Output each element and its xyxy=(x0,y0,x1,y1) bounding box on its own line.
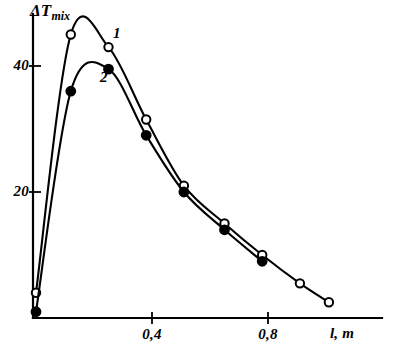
chart-figure: ΔTmix l, m 40 20 0,4 0,8 1 2 xyxy=(0,0,393,361)
data-point xyxy=(67,30,75,38)
data-point xyxy=(258,257,267,266)
y-axis-label: ΔTmix xyxy=(30,2,70,22)
data-point xyxy=(296,279,304,287)
data-point xyxy=(142,115,150,123)
series-1-markers xyxy=(32,30,333,306)
data-point xyxy=(32,307,41,316)
y-tick-label-20: 20 xyxy=(5,184,29,199)
curve-label-1: 1 xyxy=(113,26,121,41)
y-axis-label-main: ΔT xyxy=(30,1,51,20)
y-tick-label-40: 40 xyxy=(5,58,29,73)
series-1-group xyxy=(32,16,333,306)
data-point xyxy=(220,225,229,234)
x-axis-label: l, m xyxy=(330,326,354,341)
curve-label-2: 2 xyxy=(100,70,108,85)
series-1-line xyxy=(36,16,329,302)
x-tick-label-04: 0,4 xyxy=(136,327,168,342)
axis-ticks xyxy=(29,66,268,324)
axis-lines xyxy=(33,14,382,318)
series-2-group xyxy=(32,62,267,316)
chart-plot-area xyxy=(0,0,393,361)
data-point xyxy=(325,298,333,306)
series-2-markers xyxy=(32,65,267,316)
data-point xyxy=(180,188,189,197)
data-point xyxy=(142,131,151,140)
series-2-line xyxy=(36,62,262,312)
y-axis-label-subscript: mix xyxy=(51,9,70,23)
data-point xyxy=(66,87,75,96)
data-point xyxy=(104,43,112,51)
x-tick-label-08: 0,8 xyxy=(252,327,284,342)
